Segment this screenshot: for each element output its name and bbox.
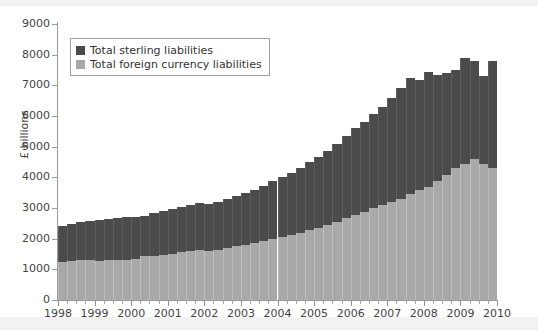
legend-label-foreign: Total foreign currency liabilities	[90, 59, 262, 70]
bar-stack	[433, 24, 442, 300]
y-axis-label: £ billions	[18, 90, 31, 180]
x-axis-tick-mark	[58, 301, 59, 306]
bar-segment-sterling	[442, 73, 451, 175]
x-axis-minor-tick-mark	[305, 301, 306, 304]
x-axis-minor-tick-mark	[140, 301, 141, 304]
bar-segment-foreign-currency	[479, 164, 488, 300]
bar-segment-sterling	[177, 207, 186, 252]
bar-segment-sterling	[424, 72, 433, 186]
bar-stack	[58, 24, 67, 300]
bar-segment-sterling	[168, 209, 177, 254]
bar-segment-sterling	[250, 190, 259, 243]
legend-swatch-sterling-icon	[76, 46, 85, 55]
bar-segment-sterling	[342, 136, 351, 218]
bar-segment-sterling	[223, 199, 232, 248]
x-axis-minor-tick-mark	[76, 301, 77, 304]
bar-segment-foreign-currency	[140, 256, 149, 300]
x-axis-minor-tick-mark	[415, 301, 416, 304]
bar-segment-sterling	[387, 98, 396, 202]
x-axis-tick-mark	[387, 301, 388, 306]
bar-stack	[479, 24, 488, 300]
bar-segment-foreign-currency	[85, 260, 94, 300]
y-axis-tick-mark	[52, 177, 57, 178]
bar-segment-foreign-currency	[342, 218, 351, 300]
bar-segment-sterling	[113, 218, 122, 260]
x-axis-minor-tick-mark	[250, 301, 251, 304]
bar-segment-foreign-currency	[296, 233, 305, 300]
bar-stack	[360, 24, 369, 300]
x-axis-tick-mark	[424, 301, 425, 306]
y-axis-tick-mark	[52, 208, 57, 209]
x-axis-minor-tick-mark	[223, 301, 224, 304]
bar-segment-foreign-currency	[305, 230, 314, 300]
bar-segment-foreign-currency	[406, 194, 415, 300]
y-axis-tick-label: 2000	[4, 233, 50, 244]
y-axis-tick-mark	[52, 116, 57, 117]
bar-segment-sterling	[314, 157, 323, 228]
bar-segment-foreign-currency	[104, 260, 113, 300]
bar-segment-sterling	[305, 162, 314, 230]
x-axis-tick-mark	[168, 301, 169, 306]
x-axis-minor-tick-mark	[259, 301, 260, 304]
bar-stack	[351, 24, 360, 300]
legend-swatch-foreign-icon	[76, 60, 85, 69]
bar-segment-foreign-currency	[460, 164, 469, 300]
bar-segment-foreign-currency	[58, 262, 67, 300]
bar-stack	[424, 24, 433, 300]
bar-segment-sterling	[451, 70, 460, 168]
bar-segment-foreign-currency	[168, 254, 177, 300]
bar-segment-foreign-currency	[131, 259, 140, 300]
x-axis-minor-tick-mark	[332, 301, 333, 304]
x-axis-tick-mark	[314, 301, 315, 306]
x-axis-minor-tick-mark	[268, 301, 269, 304]
chart-figure: 0100020003000400050006000700080009000 £ …	[0, 0, 538, 330]
bar-segment-sterling	[104, 219, 113, 260]
bar-segment-sterling	[186, 205, 195, 251]
bar-segment-sterling	[95, 220, 104, 261]
bar-segment-sterling	[351, 128, 360, 215]
bar-segment-sterling	[232, 196, 241, 246]
bar-segment-foreign-currency	[186, 251, 195, 300]
bar-segment-sterling	[406, 78, 415, 195]
x-axis-minor-tick-mark	[104, 301, 105, 304]
bar-segment-foreign-currency	[159, 255, 168, 300]
bar-segment-sterling	[415, 80, 424, 189]
bar-segment-sterling	[378, 107, 387, 205]
bar-segment-sterling	[479, 76, 488, 165]
y-axis-tick-label: 8000	[4, 49, 50, 60]
bar-segment-foreign-currency	[369, 208, 378, 300]
y-axis-tick-label: 1000	[4, 263, 50, 274]
x-axis-minor-tick-mark	[488, 301, 489, 304]
bar-stack	[332, 24, 341, 300]
y-axis-tick-mark	[52, 85, 57, 86]
bar-segment-sterling	[195, 203, 204, 250]
bar-stack	[287, 24, 296, 300]
bar-segment-foreign-currency	[113, 260, 122, 300]
x-axis-minor-tick-mark	[113, 301, 114, 304]
bar-stack	[406, 24, 415, 300]
bar-segment-sterling	[149, 213, 158, 255]
bar-segment-foreign-currency	[195, 250, 204, 300]
bar-segment-sterling	[296, 168, 305, 233]
y-axis-tick-mark	[52, 300, 57, 301]
chart-legend: Total sterling liabilities Total foreign…	[70, 38, 270, 76]
bar-segment-foreign-currency	[314, 228, 323, 300]
bar-stack	[387, 24, 396, 300]
bar-segment-sterling	[360, 122, 369, 212]
x-axis-minor-tick-mark	[296, 301, 297, 304]
x-axis-minor-tick-mark	[451, 301, 452, 304]
legend-item-foreign: Total foreign currency liabilities	[76, 57, 262, 71]
bar-stack	[378, 24, 387, 300]
bar-stack	[470, 24, 479, 300]
bar-segment-foreign-currency	[232, 246, 241, 300]
bar-segment-sterling	[131, 217, 140, 258]
bar-stack	[442, 24, 451, 300]
x-axis-minor-tick-mark	[213, 301, 214, 304]
bar-segment-foreign-currency	[278, 237, 287, 300]
x-axis-minor-tick-mark	[433, 301, 434, 304]
x-axis-tick-mark	[460, 301, 461, 306]
bar-segment-sterling	[67, 224, 76, 261]
bar-stack	[278, 24, 287, 300]
bar-segment-sterling	[213, 202, 222, 250]
bar-segment-sterling	[460, 58, 469, 164]
